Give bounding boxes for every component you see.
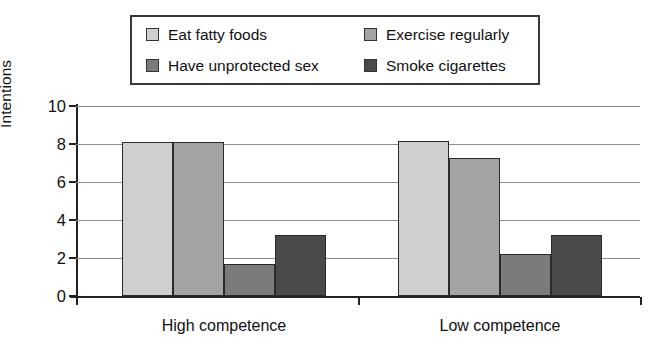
legend-label-eat-fatty-foods: Eat fatty foods xyxy=(168,27,267,43)
bar xyxy=(500,254,551,296)
legend-item-exercise-regularly: Exercise regularly xyxy=(364,27,556,43)
bar xyxy=(224,264,275,296)
y-axis-tick-label: 6 xyxy=(57,174,66,191)
x-axis-group-label: High competence xyxy=(162,318,287,334)
y-axis-tick-label: 10 xyxy=(48,98,66,115)
bar xyxy=(551,235,602,296)
y-axis-tick xyxy=(69,219,76,221)
y-axis-tick xyxy=(69,295,76,297)
y-axis-line xyxy=(76,104,78,298)
bar xyxy=(173,142,224,296)
y-axis-tick-label: 8 xyxy=(57,136,66,153)
y-axis-tick xyxy=(69,181,76,183)
chart-legend: Eat fatty foods Exercise regularly Have … xyxy=(130,15,540,85)
x-axis-line xyxy=(70,296,640,298)
bar-chart-figure: Eat fatty foods Exercise regularly Have … xyxy=(0,0,657,354)
x-axis-tick xyxy=(358,297,360,305)
y-axis-tick xyxy=(69,105,76,107)
bar xyxy=(122,142,173,296)
x-axis-group-label: Low competence xyxy=(440,318,561,334)
y-axis-tick-label: 2 xyxy=(57,250,66,267)
legend-label-have-unprotected-sex: Have unprotected sex xyxy=(168,58,319,74)
y-axis-tick-label: 4 xyxy=(57,212,66,229)
legend-swatch-eat-fatty-foods xyxy=(146,28,159,41)
legend-swatch-smoke-cigarettes xyxy=(364,59,377,72)
plot-area: 0246810 High competenceLow competence xyxy=(76,106,640,296)
y-axis-tick-label: 0 xyxy=(57,288,66,305)
bar xyxy=(398,141,449,296)
bar xyxy=(275,235,326,296)
legend-item-smoke-cigarettes: Smoke cigarettes xyxy=(364,58,556,74)
legend-label-smoke-cigarettes: Smoke cigarettes xyxy=(386,58,506,74)
legend-swatch-have-unprotected-sex xyxy=(146,59,159,72)
legend-swatch-exercise-regularly xyxy=(364,28,377,41)
legend-label-exercise-regularly: Exercise regularly xyxy=(386,27,509,43)
y-axis-title: Intentions xyxy=(0,60,14,128)
legend-item-eat-fatty-foods: Eat fatty foods xyxy=(146,27,364,43)
y-axis-tick-labels: 0246810 xyxy=(24,106,66,296)
x-axis-tick xyxy=(76,297,78,305)
y-axis-tick xyxy=(69,257,76,259)
legend-item-have-unprotected-sex: Have unprotected sex xyxy=(146,58,364,74)
gridline xyxy=(76,106,640,107)
y-axis-tick xyxy=(69,143,76,145)
bar xyxy=(449,158,500,296)
x-axis-tick xyxy=(640,297,642,305)
